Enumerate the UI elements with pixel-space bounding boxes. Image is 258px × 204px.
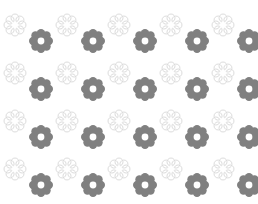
outline-flower-icon: [212, 14, 234, 36]
solid-gear-flower-icon: [29, 29, 53, 53]
pattern-surface: [0, 0, 258, 204]
solid-gear-flower-icon: [185, 29, 209, 53]
outline-flower-icon: [212, 62, 234, 84]
outline-flower-icon: [108, 110, 130, 132]
solid-gear-flower-icon: [133, 77, 157, 101]
solid-gear-flower-icon: [185, 77, 209, 101]
outline-flower-icon: [108, 14, 130, 36]
outline-flower-icon: [4, 62, 26, 84]
solid-gear-flower-icon: [29, 125, 53, 149]
solid-gear-flower-icon: [81, 173, 105, 197]
outline-flower-icon: [56, 110, 78, 132]
outline-flower-icon: [56, 158, 78, 180]
solid-gear-flower-icon: [81, 77, 105, 101]
outline-flower-icon: [108, 158, 130, 180]
solid-gear-flower-icon: [133, 29, 157, 53]
solid-gear-flower-icon: [29, 173, 53, 197]
outline-flower-icon: [160, 62, 182, 84]
outline-flower-icon: [160, 14, 182, 36]
outline-flower-icon: [108, 62, 130, 84]
solid-gear-flower-icon: [81, 125, 105, 149]
solid-gear-flower-icon: [133, 125, 157, 149]
solid-gear-flower-icon: [29, 77, 53, 101]
outline-flower-icon: [160, 158, 182, 180]
pattern-canvas: [0, 0, 258, 204]
outline-flower-icon: [4, 110, 26, 132]
solid-gear-flower-icon: [185, 125, 209, 149]
outline-flower-icon: [56, 14, 78, 36]
solid-gear-flower-icon: [185, 173, 209, 197]
solid-gear-flower-icon: [81, 29, 105, 53]
outline-flower-icon: [4, 14, 26, 36]
outline-flower-icon: [160, 110, 182, 132]
outline-flower-icon: [212, 158, 234, 180]
outline-flower-icon: [4, 158, 26, 180]
outline-flower-icon: [56, 62, 78, 84]
outline-flower-icon: [212, 110, 234, 132]
solid-gear-flower-icon: [133, 173, 157, 197]
